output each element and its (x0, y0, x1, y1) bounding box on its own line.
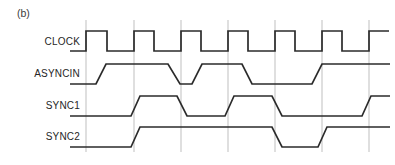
timing-diagram-canvas: (b) CLOCKASYNCINSYNC1SYNC2 (0, 0, 395, 165)
timing-diagram-figure: (b) CLOCKASYNCINSYNC1SYNC2 (0, 0, 395, 165)
signal-label-asyncin: ASYNCIN (34, 68, 80, 79)
signal-label-sync1: SYNC1 (46, 100, 81, 111)
signal-label-sync2: SYNC2 (46, 131, 81, 142)
figure-caption: (b) (17, 7, 30, 19)
signal-label-clock: CLOCK (45, 36, 81, 47)
